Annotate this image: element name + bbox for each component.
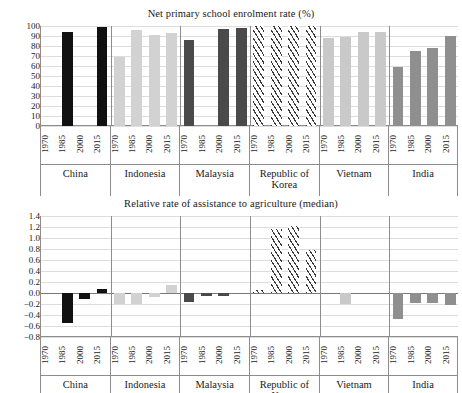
year-tick-2000: 2000 (285, 126, 302, 164)
plot-canvas-top (40, 26, 458, 126)
y-tick-label: 40 (31, 82, 40, 91)
year-tick-2000: 2000 (215, 126, 232, 164)
year-tick-2000: 2000 (354, 126, 371, 164)
country-label-india: India (389, 164, 457, 196)
bar-india-2000 (427, 48, 438, 126)
year-tick-2015: 2015 (372, 126, 389, 164)
bar-china-1985 (62, 32, 73, 126)
year-tick-2015: 2015 (442, 126, 459, 164)
bar-malaysia-1985 (201, 293, 212, 296)
bar-republic-of-korea-2015 (306, 250, 317, 293)
year-tick-row: 1970198520002015 (250, 337, 319, 375)
bar-indonesia-2000 (149, 35, 160, 126)
bar-china-1985 (62, 293, 73, 323)
bar-indonesia-2000 (149, 293, 160, 297)
chart-title-top: Net primary school enrolment rate (%) (0, 8, 462, 19)
bar-republic-of-korea-2015 (306, 26, 317, 126)
year-tick-2015: 2015 (372, 337, 389, 375)
year-tick-2000: 2000 (424, 337, 441, 375)
chart-title-bottom: Relative rate of assistance to agricultu… (0, 198, 462, 209)
year-tick-row: 1970198520002015 (180, 126, 249, 164)
axis-group-malaysia: 1970198520002015Malaysia (179, 337, 249, 393)
year-tick-1970: 1970 (320, 126, 337, 164)
plot-area-top: 0102030405060708090100 (14, 26, 458, 126)
bar-india-1985 (410, 51, 421, 126)
year-tick-row: 1970198520002015 (320, 337, 389, 375)
bar-vietnam-2000 (358, 32, 369, 126)
year-tick-row: 1970198520002015 (250, 126, 319, 164)
country-label-china: China (41, 375, 110, 393)
country-label-malaysia: Malaysia (180, 164, 249, 196)
y-tick-label: 0.6 (29, 256, 40, 265)
axis-group-vietnam: 1970198520002015Vietnam (319, 126, 389, 196)
year-tick-row: 1970198520002015 (41, 126, 110, 164)
bar-malaysia-1970 (184, 293, 195, 302)
year-tick-1985: 1985 (198, 337, 215, 375)
year-tick-1985: 1985 (128, 126, 145, 164)
y-tick-label: 1.4 (29, 212, 40, 221)
y-tick-label: −0.2 (24, 300, 40, 309)
y-axis-labels-top: 0102030405060708090100 (14, 26, 40, 126)
year-tick-1970: 1970 (111, 126, 128, 164)
year-tick-1970: 1970 (320, 337, 337, 375)
group-separator (250, 216, 251, 337)
year-tick-1985: 1985 (58, 126, 75, 164)
year-tick-2015: 2015 (233, 337, 250, 375)
year-tick-1970: 1970 (180, 126, 197, 164)
bar-malaysia-2000 (218, 29, 229, 126)
chart-relative-assistance: Relative rate of assistance to agricultu… (0, 198, 462, 393)
axis-group-india: 1970198520002015India (388, 337, 458, 393)
bar-indonesia-1970 (114, 57, 125, 126)
year-tick-2000: 2000 (285, 337, 302, 375)
year-tick-2015: 2015 (163, 126, 180, 164)
bar-vietnam-2015 (375, 32, 386, 126)
bar-indonesia-1985 (131, 30, 142, 126)
year-tick-1985: 1985 (267, 337, 284, 375)
year-tick-row: 1970198520002015 (111, 126, 180, 164)
group-separator (180, 26, 181, 126)
y-tick-label: −0.8 (24, 333, 40, 342)
year-tick-1985: 1985 (407, 337, 424, 375)
axis-group-vietnam: 1970198520002015Vietnam (319, 337, 389, 393)
axis-group-china: 1970198520002015China (40, 126, 110, 196)
y-tick-label: −0.4 (24, 311, 40, 320)
group-separator (111, 26, 112, 126)
plot-area-bottom: 1.41.21.00.80.60.40.20.0−0.2−0.4−0.6−0.8 (14, 216, 458, 337)
y-tick-label: 80 (31, 42, 40, 51)
year-tick-row: 1970198520002015 (389, 126, 457, 164)
bar-malaysia-2000 (218, 293, 229, 296)
year-tick-row: 1970198520002015 (111, 337, 180, 375)
year-tick-2015: 2015 (93, 126, 110, 164)
year-tick-2015: 2015 (93, 337, 110, 375)
group-separator (389, 216, 390, 337)
year-tick-2015: 2015 (233, 126, 250, 164)
bar-china-2000 (79, 293, 90, 299)
year-tick-row: 1970198520002015 (389, 337, 457, 375)
group-separator (320, 216, 321, 337)
axis-group-china: 1970198520002015China (40, 337, 110, 393)
x-axis-table-bottom: 1970198520002015China1970198520002015Ind… (40, 337, 458, 393)
bar-india-2000 (427, 293, 438, 303)
bar-malaysia-2015 (236, 28, 247, 126)
group-separator (320, 26, 321, 126)
country-label-republic-of-korea: Republic of Korea (250, 375, 319, 393)
y-tick-label: −0.6 (24, 322, 40, 331)
year-tick-1970: 1970 (41, 337, 58, 375)
year-tick-1985: 1985 (198, 126, 215, 164)
bar-china-2015 (97, 289, 108, 293)
bar-indonesia-2015 (166, 285, 177, 293)
year-tick-1985: 1985 (267, 126, 284, 164)
year-tick-row: 1970198520002015 (180, 337, 249, 375)
year-tick-1970: 1970 (250, 337, 267, 375)
axis-group-republic-of-korea: 1970198520002015Republic of Korea (249, 337, 319, 393)
bar-indonesia-1985 (131, 293, 142, 304)
year-tick-2000: 2000 (145, 126, 162, 164)
group-separator (180, 216, 181, 337)
year-tick-1985: 1985 (407, 126, 424, 164)
plot-canvas-bottom (40, 216, 458, 337)
bar-republic-of-korea-1985 (271, 26, 282, 126)
bar-republic-of-korea-1985 (271, 229, 282, 293)
year-tick-1970: 1970 (180, 337, 197, 375)
y-tick-label: 0.8 (29, 245, 40, 254)
bar-china-2015 (97, 27, 108, 126)
